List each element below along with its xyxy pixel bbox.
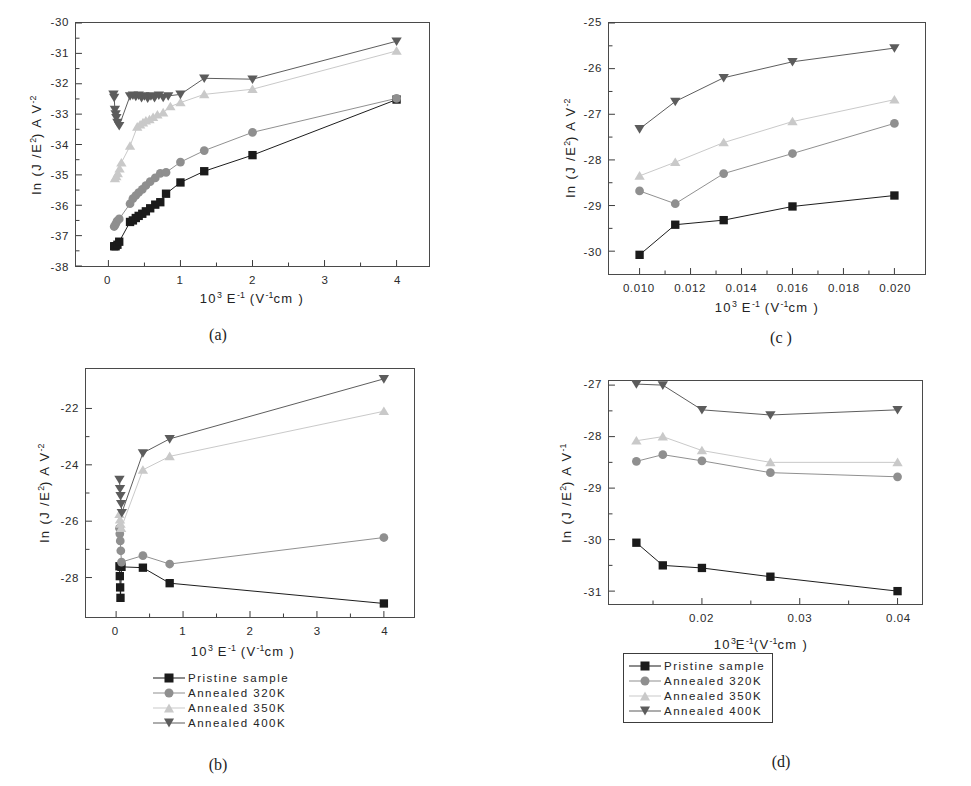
y-axis-title-b: ln (J /E2) A V-2 (36, 444, 52, 543)
data-point-ann320 (200, 146, 209, 155)
series-line-ann350 (119, 411, 383, 528)
y-axis-title-d: ln (J /E2) A V-1 (558, 444, 574, 543)
y-axis-title-c: ln (J /E2) A V-2 (562, 99, 578, 198)
data-point-ann320 (658, 450, 667, 459)
data-point-ann400 (670, 98, 680, 107)
x-tick-label: 3 (321, 274, 328, 286)
legend-label: Annealed 350K (188, 702, 286, 714)
y-tick-label: -37 (33, 230, 69, 242)
legend-item: Annealed 400K (153, 715, 289, 730)
y-tick-label: -30 (566, 246, 602, 258)
data-point-ann400 (634, 125, 644, 134)
x-tick-label: 0 (104, 274, 111, 286)
data-point-ann320 (893, 472, 902, 481)
data-point-pristine (671, 221, 679, 229)
panel-b: -28-26-24-2201234 103 E-1 (V-1cm ) ln (J… (0, 348, 486, 786)
data-point-ann400 (138, 449, 148, 458)
x-tick-label: 0.03 (788, 612, 813, 624)
legend-marker-ann400 (153, 716, 185, 729)
panel-caption-c: (c ) (770, 329, 792, 347)
data-point-pristine (176, 178, 184, 186)
data-point-ann350 (138, 465, 148, 474)
data-point-ann320 (698, 456, 707, 465)
plot-canvas-a (76, 23, 429, 266)
y-axis-title-a: ln (J /E2) A V-2 (28, 96, 44, 195)
figure-root: -38-37-36-35-34-33-32-31-3001234 103 E-1… (0, 0, 971, 786)
legend-item: Pristine sample (629, 658, 765, 673)
x-tick-label: 4 (394, 274, 401, 286)
data-point-pristine (248, 151, 256, 159)
legend-item: Annealed 400K (629, 703, 765, 718)
x-tick-label: 0.020 (879, 282, 911, 294)
data-point-ann400 (658, 381, 668, 390)
legend-label: Annealed 400K (664, 705, 762, 717)
data-point-pristine (116, 583, 124, 591)
legend-glyph (640, 691, 650, 700)
x-tick-label: 3 (314, 625, 321, 637)
y-tick-label: -22 (43, 402, 79, 414)
legend-label: Annealed 350K (664, 690, 762, 702)
panel-caption-b: (b) (209, 756, 228, 774)
legend-glyph (641, 676, 650, 685)
data-point-pristine (156, 198, 164, 206)
data-point-ann320 (632, 457, 641, 466)
legend-d: Pristine sampleAnnealed 320KAnnealed 350… (623, 653, 773, 723)
x-axis-title-d: 103E-1(V-1cm ) (714, 636, 809, 652)
data-point-ann400 (165, 435, 175, 444)
data-point-ann320 (380, 533, 389, 542)
legend-marker-ann350 (629, 689, 661, 702)
data-point-ann350 (116, 158, 126, 167)
data-point-ann350 (634, 171, 644, 180)
series-line-ann400 (119, 379, 383, 513)
data-point-ann350 (697, 446, 707, 455)
data-point-pristine (893, 587, 901, 595)
data-point-ann320 (116, 537, 125, 546)
data-point-ann320 (176, 158, 185, 167)
data-point-pristine (162, 190, 170, 198)
panel-c: -30-29-28-27-26-250.0100.0120.0140.0160.… (486, 0, 971, 348)
data-point-pristine (720, 216, 728, 224)
data-point-ann320 (635, 187, 644, 196)
y-tick-label: -28 (566, 430, 602, 442)
legend-item: Pristine sample (153, 670, 289, 685)
legend-marker-ann350 (153, 701, 185, 714)
plot-canvas-c (609, 23, 925, 274)
data-point-ann320 (115, 215, 124, 224)
y-tick-label: -26 (566, 62, 602, 74)
y-tick-label: -31 (33, 47, 69, 59)
series-line-ann320 (119, 528, 383, 564)
data-point-ann400 (114, 476, 124, 485)
data-point-ann350 (670, 157, 680, 166)
data-point-pristine (116, 594, 124, 602)
data-point-ann400 (115, 492, 125, 501)
y-tick-label: -30 (33, 16, 69, 28)
legend-label: Pristine sample (664, 660, 765, 672)
legend-item: Annealed 320K (153, 685, 289, 700)
x-tick-label: 0.014 (725, 282, 757, 294)
x-axis-title-a: 103 E-1 (V-1cm ) (200, 290, 305, 306)
legend-glyph (165, 688, 174, 697)
data-point-ann320 (116, 546, 125, 555)
series-line-ann400 (636, 384, 897, 415)
legend-glyph (640, 706, 650, 715)
data-point-pristine (380, 599, 388, 607)
x-tick-label: 1 (177, 274, 184, 286)
panel-caption-d: (d) (772, 753, 791, 771)
panel-a: -38-37-36-35-34-33-32-31-3001234 103 E-1… (0, 0, 486, 348)
series-line-pristine (119, 566, 383, 603)
y-tick-label: -31 (566, 586, 602, 598)
data-point-ann400 (247, 75, 257, 84)
x-tick-label: 0.04 (886, 612, 911, 624)
y-tick-label: -29 (566, 200, 602, 212)
legend-marker-ann320 (153, 686, 185, 699)
data-point-ann320 (162, 168, 171, 177)
legend-marker-pristine (629, 659, 661, 672)
data-point-pristine (788, 202, 796, 210)
data-point-ann350 (719, 138, 729, 147)
panel-d: -31-30-29-28-270.020.030.04 103E-1(V-1cm… (486, 348, 971, 786)
data-point-ann320 (248, 128, 257, 137)
legend-label: Annealed 400K (188, 717, 286, 729)
legend-label: Pristine sample (188, 672, 289, 684)
data-point-ann400 (765, 411, 775, 420)
x-tick-label: 0.018 (828, 282, 860, 294)
